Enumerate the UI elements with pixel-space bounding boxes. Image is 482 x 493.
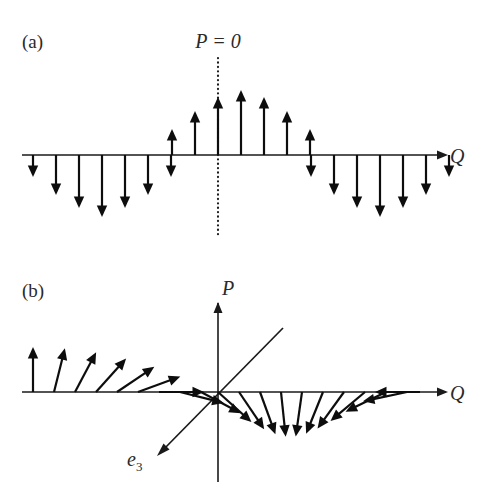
spin-arrow-head-icon bbox=[168, 376, 181, 386]
spin-arrow-shaft bbox=[281, 392, 285, 427]
spin-arrow-down bbox=[375, 155, 385, 217]
spin-arrow-shaft bbox=[138, 380, 171, 392]
spin-arrow-rotating bbox=[75, 352, 96, 392]
spin-arrow-rotating bbox=[331, 392, 365, 421]
panel-a-spin-arrows bbox=[28, 90, 454, 217]
spin-arrow-head-icon bbox=[51, 184, 61, 196]
spin-arrow-head-icon bbox=[259, 97, 269, 109]
panel-b-e3-axis: e3 bbox=[127, 328, 283, 474]
spin-arrow-down bbox=[120, 155, 130, 208]
spin-arrow-head-icon bbox=[190, 111, 200, 123]
spin-arrow-head-icon bbox=[120, 197, 130, 209]
spin-arrow-head-icon bbox=[375, 206, 385, 218]
spin-arrow-head-icon bbox=[421, 184, 431, 196]
spin-arrow-head-icon bbox=[282, 111, 292, 123]
panel-a-q-axis: Q bbox=[22, 145, 465, 167]
spin-arrow-head-icon bbox=[292, 424, 302, 436]
spin-arrow-up bbox=[190, 111, 200, 155]
spin-arrow-rotating bbox=[96, 359, 126, 392]
spin-arrow-head-icon bbox=[166, 166, 176, 178]
spin-arrow-down bbox=[166, 155, 176, 177]
spin-arrow-rotating bbox=[279, 392, 289, 437]
spin-arrow-down bbox=[398, 155, 408, 208]
spin-arrow-head-icon bbox=[398, 197, 408, 209]
panel-b-p-axis: P bbox=[214, 277, 235, 482]
spin-arrow-down bbox=[74, 155, 84, 208]
spin-arrow-down bbox=[421, 155, 431, 195]
q-axis-label: Q bbox=[450, 382, 465, 404]
spin-arrow-up bbox=[213, 97, 223, 155]
p-axis-arrowhead-icon bbox=[214, 302, 223, 313]
spin-arrow-down bbox=[352, 155, 362, 208]
spin-arrow-head-icon bbox=[444, 166, 454, 178]
q-axis-arrowhead-icon bbox=[437, 388, 448, 397]
spin-arrow-head-icon bbox=[352, 197, 362, 209]
e3-axis-label: e3 bbox=[127, 448, 142, 474]
spin-arrow-rotating bbox=[54, 348, 67, 392]
q-axis-arrowhead-icon bbox=[437, 151, 448, 160]
spin-arrow-rotating bbox=[218, 392, 251, 422]
spin-arrow-rotating bbox=[306, 392, 323, 434]
spin-arrow-head-icon bbox=[142, 367, 154, 378]
spin-arrow-up bbox=[236, 90, 246, 155]
spin-arrow-head-icon bbox=[305, 129, 315, 141]
spin-arrow-head-icon bbox=[213, 97, 223, 109]
spin-arrow-head-icon bbox=[167, 129, 177, 141]
spin-arrow-head-icon bbox=[329, 184, 339, 196]
spin-arrow-rotating bbox=[239, 392, 264, 429]
spin-arrow-head-icon bbox=[97, 206, 107, 218]
p-axis-label: P bbox=[221, 277, 234, 299]
spin-arrow-shaft bbox=[54, 357, 63, 392]
spin-arrow-up bbox=[305, 129, 315, 155]
figure-root: (a) Q P = 0 (b) Q P bbox=[0, 0, 482, 493]
spin-arrow-shaft bbox=[75, 361, 92, 392]
spin-arrow-head-icon bbox=[267, 422, 277, 435]
spin-arrow-down bbox=[28, 155, 38, 177]
spin-arrow-head-icon bbox=[318, 416, 329, 428]
spin-arrow-head-icon bbox=[57, 348, 67, 360]
spin-arrow-up bbox=[282, 111, 292, 155]
spin-arrow-head-icon bbox=[236, 90, 246, 102]
panel-b: (b) Q P e3 bbox=[22, 277, 465, 482]
panel-a: (a) Q P = 0 bbox=[22, 30, 465, 236]
spin-arrow-up bbox=[167, 129, 177, 155]
spin-arrow-down bbox=[97, 155, 107, 217]
spin-arrow-head-icon bbox=[279, 425, 289, 437]
p-equals-zero-label: P = 0 bbox=[194, 30, 240, 52]
spin-arrow-head-icon bbox=[253, 417, 264, 429]
panel-a-label: (a) bbox=[22, 31, 43, 53]
spin-arrow-down bbox=[143, 155, 153, 195]
spin-arrow-shaft bbox=[297, 392, 302, 427]
spin-arrow-rotating bbox=[28, 347, 38, 392]
spin-arrow-shaft bbox=[96, 366, 120, 392]
spin-arrow-down bbox=[51, 155, 61, 195]
spin-arrow-head-icon bbox=[306, 166, 316, 178]
spin-arrow-shaft bbox=[117, 372, 146, 392]
spin-arrow-down bbox=[306, 155, 316, 177]
spin-arrow-head-icon bbox=[28, 347, 38, 359]
q-axis-label: Q bbox=[450, 145, 465, 167]
spin-arrow-head-icon bbox=[143, 184, 153, 196]
spin-arrow-up bbox=[259, 97, 269, 155]
spin-arrow-head-icon bbox=[74, 197, 84, 209]
panel-b-label: (b) bbox=[22, 280, 44, 302]
spin-arrow-rotating bbox=[138, 376, 180, 392]
spin-arrow-down bbox=[329, 155, 339, 195]
spin-arrow-head-icon bbox=[28, 166, 38, 178]
spin-arrow-rotating bbox=[375, 387, 420, 397]
e3-axis-line bbox=[162, 328, 283, 451]
figure-canvas: (a) Q P = 0 (b) Q P bbox=[0, 0, 482, 493]
spin-arrow-rotating bbox=[292, 392, 302, 437]
